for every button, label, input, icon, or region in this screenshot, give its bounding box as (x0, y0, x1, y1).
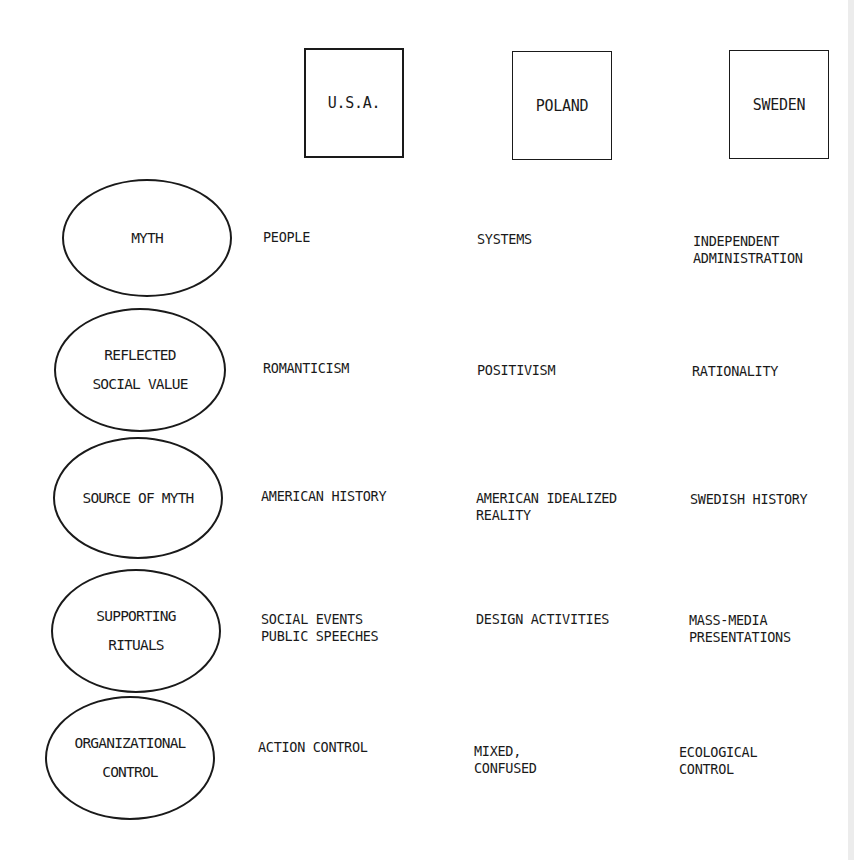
cell-value-sweden: RATIONALITY (692, 363, 778, 380)
row-label-text: MYTH (131, 224, 163, 253)
row-label-reflected-social-value: REFLECTED SOCIAL VALUE (54, 308, 226, 432)
column-header-label: U.S.A. (328, 94, 380, 112)
cell-value-poland: POSITIVISM (477, 362, 555, 379)
cell-myth-sweden: INDEPENDENT ADMINISTRATION (693, 233, 803, 267)
row-label-source-of-myth: SOURCE OF MYTH (53, 437, 223, 559)
column-header-label: POLAND (536, 97, 588, 115)
row-label-text: SOURCE OF MYTH (82, 484, 193, 513)
cell-source-poland: AMERICAN IDEALIZED REALITY (476, 490, 617, 524)
cell-source-usa: AMERICAN HISTORY (261, 488, 386, 505)
scan-edge-strip (848, 0, 854, 860)
cell-rituals-poland: DESIGN ACTIVITIES (476, 611, 609, 628)
cell-control-poland: MIXED, CONFUSED (474, 743, 537, 777)
row-label-text: SUPPORTING RITUALS (96, 602, 175, 660)
cell-control-usa: ACTION CONTROL (258, 739, 368, 756)
row-label-myth: MYTH (62, 179, 232, 297)
cell-control-sweden: ECOLOGICAL CONTROL (679, 744, 757, 778)
cell-rituals-usa: SOCIAL EVENTS PUBLIC SPEECHES (261, 611, 378, 645)
row-label-organizational-control: ORGANIZATIONAL CONTROL (45, 696, 215, 820)
cell-myth-usa: PEOPLE (263, 229, 310, 246)
cell-source-sweden: SWEDISH HISTORY (690, 491, 807, 508)
cell-myth-poland: SYSTEMS (477, 231, 532, 248)
column-header-sweden: SWEDEN (729, 50, 829, 159)
column-header-usa: U.S.A. (304, 48, 404, 158)
column-header-poland: POLAND (512, 51, 612, 160)
cell-rituals-sweden: MASS-MEDIA PRESENTATIONS (689, 612, 791, 646)
column-header-label: SWEDEN (753, 96, 805, 114)
cell-value-usa: ROMANTICISM (263, 360, 349, 377)
row-label-text: ORGANIZATIONAL CONTROL (74, 729, 185, 787)
row-label-text: REFLECTED SOCIAL VALUE (92, 341, 187, 399)
row-label-supporting-rituals: SUPPORTING RITUALS (51, 569, 221, 693)
